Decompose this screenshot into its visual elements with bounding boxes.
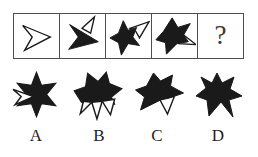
dart-black-with-outline-point-icon — [62, 15, 104, 57]
option-c-label[interactable]: C — [142, 126, 172, 146]
puzzle-image: ? A B C D — [0, 0, 258, 157]
sequence-cell-3 — [105, 13, 152, 59]
question-mark: ? — [215, 22, 227, 49]
star-black-with-outline-triangle-icon — [154, 15, 196, 57]
star-black-white-chevron-notch-icon — [12, 69, 62, 120]
star-solid-black-notched-icon — [194, 71, 244, 119]
star-black-white-triangle-bottom-icon — [133, 70, 187, 116]
sequence-cell-1 — [13, 13, 60, 59]
option-a-label[interactable]: A — [21, 126, 51, 146]
sequence-cell-4 — [151, 13, 198, 59]
option-d-label[interactable]: D — [203, 126, 233, 146]
chevron-outline-icon — [16, 15, 58, 57]
option-a-shape[interactable] — [12, 69, 62, 124]
option-d-shape[interactable] — [194, 71, 244, 123]
sequence-cell-2 — [59, 13, 106, 59]
sequence-cell-question: ? — [197, 13, 244, 59]
option-b-shape[interactable] — [72, 69, 124, 125]
star-black-top-white-points-bottom-icon — [72, 69, 124, 121]
sequence-strip: ? — [13, 13, 244, 59]
option-b-label[interactable]: B — [84, 126, 114, 146]
option-c-shape[interactable] — [133, 70, 187, 120]
star-black-with-outline-chevron-icon — [108, 15, 150, 57]
